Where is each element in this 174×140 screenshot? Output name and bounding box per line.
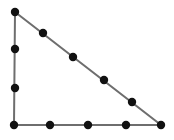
triangle-outline: [14, 12, 161, 125]
dot-marker: [128, 98, 136, 106]
dot-marker: [10, 121, 18, 129]
dot-marker: [122, 121, 130, 129]
dot-marker: [11, 45, 19, 53]
dot-marker: [11, 8, 19, 16]
dot-marker: [84, 121, 92, 129]
dot-marker: [157, 121, 165, 129]
dot-marker: [100, 76, 108, 84]
triangle-diagram: [0, 0, 174, 140]
dot-marker: [69, 53, 77, 61]
dot-marker: [39, 29, 47, 37]
dot-marker: [46, 121, 54, 129]
dot-marker: [11, 84, 19, 92]
